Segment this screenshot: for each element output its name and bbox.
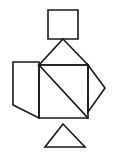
canvas-background — [0, 0, 123, 153]
tangram-svg — [0, 0, 123, 153]
tangram-figure-canvas: Line-drawing tangram silhouette resembli… — [0, 0, 123, 153]
